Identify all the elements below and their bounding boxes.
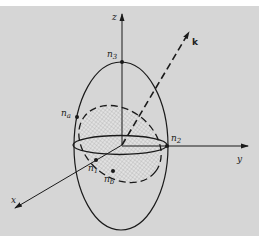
point-na <box>75 115 79 119</box>
index-ellipsoid-diagram: z y x k n3 na n2 n1 nb <box>0 0 259 236</box>
point-n1 <box>94 158 98 162</box>
point-n3 <box>120 60 124 64</box>
x-axis-label: x <box>11 195 16 205</box>
point-n2 <box>165 144 169 148</box>
k-label: k <box>192 37 199 47</box>
y-axis-label: y <box>236 154 243 164</box>
point-nb <box>111 169 115 173</box>
z-axis-label: z <box>111 12 117 22</box>
